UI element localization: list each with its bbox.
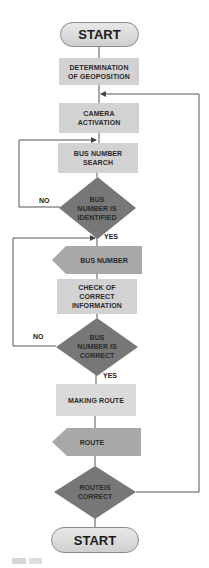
camera-activation-process: CAMERA ACTIVATION <box>59 103 139 133</box>
bus-number-search-process: BUS NUMBER SEARCH <box>58 143 138 173</box>
check-information-label: CHECK OF CORRECT INFORMATION <box>67 283 127 310</box>
making-route-process: MAKING ROUTE <box>56 384 136 416</box>
making-route-label: MAKING ROUTE <box>68 396 124 405</box>
check-information-process: CHECK OF CORRECT INFORMATION <box>57 279 137 314</box>
determination-process: DETERMINATION OF GEOPOSITION <box>59 58 139 85</box>
route-display-label: ROUTE <box>80 439 105 446</box>
bus-number-display-label: BUS NUMBER <box>80 257 127 264</box>
decision-identified: BUS NUMBER IS IDENTIFIED <box>62 190 132 226</box>
start-bottom-label: START <box>74 533 116 548</box>
determination-label: DETERMINATION OF GEOPOSITION <box>64 63 134 81</box>
decision-route: ROUTEIS CORRECT <box>60 478 130 506</box>
figure-caption-cropped <box>12 558 62 564</box>
bus-number-search-label: BUS NUMBER SEARCH <box>71 149 126 167</box>
start-terminator-top: START <box>60 22 139 47</box>
no-label-1: NO <box>39 197 50 204</box>
bus-number-display: BUS NUMBER <box>66 246 142 274</box>
decision-route-label: ROUTEIS CORRECT <box>76 483 114 501</box>
no-label-2: NO <box>33 333 44 340</box>
yes-label-2: YES <box>103 372 117 379</box>
start-terminator-bottom: START <box>51 527 139 553</box>
yes-label-1: YES <box>104 233 118 240</box>
decision-correct-label: BUS NUMBER IS CORRECT <box>74 333 120 360</box>
decision-identified-label: BUS NUMBER IS IDENTIFIED <box>74 195 120 222</box>
route-display: ROUTE <box>52 428 132 456</box>
decision-correct: BUS NUMBER IS CORRECT <box>60 328 134 364</box>
start-label: START <box>78 27 120 42</box>
camera-activation-label: CAMERA ACTIVATION <box>74 109 124 127</box>
